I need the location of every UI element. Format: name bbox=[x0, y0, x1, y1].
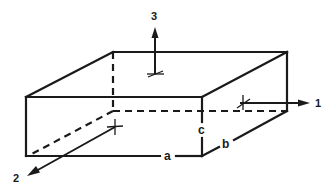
axis-3-arrowhead bbox=[152, 27, 159, 38]
edge-right-top bbox=[202, 52, 287, 97]
axis-3-label: 3 bbox=[151, 10, 157, 22]
edge-right-bottom-lower bbox=[202, 147, 219, 156]
axis-2-shaft bbox=[36, 127, 115, 171]
axis-2-label: 2 bbox=[13, 172, 19, 184]
axis-1: 1 bbox=[237, 95, 321, 110]
edge-left-top bbox=[26, 52, 113, 97]
axis-3: 3 bbox=[147, 10, 164, 77]
dimension-label-c: c bbox=[198, 123, 205, 137]
prism-diagram: 3 1 2 a b c bbox=[0, 0, 335, 186]
axis-2-arrowhead bbox=[27, 166, 40, 176]
axis-1-label: 1 bbox=[315, 97, 321, 109]
edge-right-bottom-upper bbox=[234, 111, 287, 140]
axis-2: 2 bbox=[13, 119, 123, 184]
dimension-label-b: b bbox=[222, 137, 229, 151]
dimension-label-a: a bbox=[164, 149, 171, 163]
hidden-edge-left-bottom bbox=[28, 111, 113, 156]
axis-2-origin-tick-h bbox=[107, 126, 123, 127]
axis-1-arrowhead bbox=[298, 100, 310, 107]
